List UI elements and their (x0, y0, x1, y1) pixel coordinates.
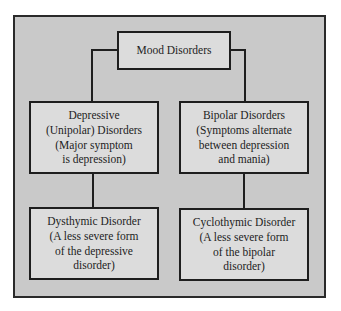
cyclothymic-line-3: of the bipolar (213, 245, 275, 260)
mood-disorders-label: Mood Disorders (136, 43, 211, 58)
bipolar-disorders-box: Bipolar Disorders (Symptoms alternate be… (179, 101, 309, 174)
cyclothymic-line-4: disorder) (223, 259, 265, 274)
cyclothymic-line-2: (A less severe form (199, 230, 288, 245)
bipolar-line-4: and mania) (218, 152, 269, 167)
connector-right-vertical-top (244, 49, 246, 102)
dysthymic-line-2: (A less severe form (49, 229, 138, 244)
dysthymic-line-3: of the depressive (55, 244, 133, 259)
bipolar-line-3: between depression (199, 138, 289, 153)
dysthymic-line-4: disorder) (73, 258, 115, 273)
depressive-line-4: is depression) (62, 152, 126, 167)
dysthymic-disorder-box: Dysthymic Disorder (A less severe form o… (29, 207, 159, 280)
depressive-line-1: Depressive (68, 108, 119, 123)
mood-disorders-box: Mood Disorders (117, 31, 231, 70)
connector-right-vertical-bottom (243, 172, 245, 209)
connector-root-to-left (91, 49, 119, 51)
depressive-line-3: (Major symptom (55, 138, 133, 153)
dysthymic-line-1: Dysthymic Disorder (47, 214, 141, 229)
cyclothymic-line-1: Cyclothymic Disorder (193, 215, 296, 230)
connector-left-vertical-top (91, 49, 93, 102)
bipolar-line-1: Bipolar Disorders (203, 108, 285, 123)
connector-left-vertical-bottom (92, 172, 94, 208)
depressive-line-2: (Unipolar) Disorders (46, 123, 142, 138)
bipolar-line-2: (Symptoms alternate (196, 123, 292, 138)
depressive-disorders-box: Depressive (Unipolar) Disorders (Major s… (29, 101, 159, 174)
cyclothymic-disorder-box: Cyclothymic Disorder (A less severe form… (179, 208, 309, 281)
